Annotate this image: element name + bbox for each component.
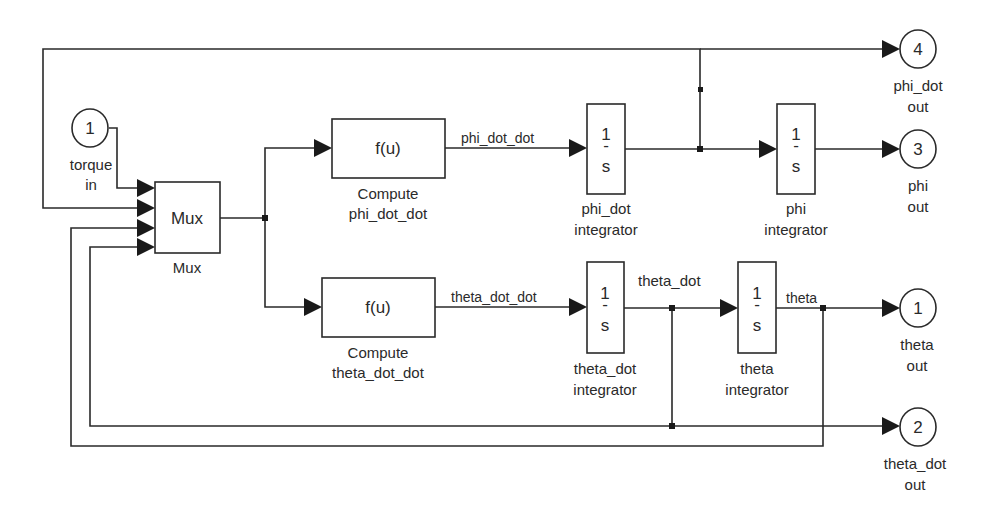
integrator-theta-bar: - — [754, 295, 760, 314]
outport-phi-label-line1: phi — [908, 177, 928, 194]
arrow-out4 — [882, 40, 900, 58]
arrow-out1 — [882, 299, 900, 317]
integrator-theta-name-line2: integrator — [725, 381, 788, 398]
inport-torque-number: 1 — [85, 119, 94, 138]
outport-theta-label-line1: theta — [900, 336, 934, 353]
mux-block-name: Mux — [173, 259, 202, 276]
integrator-phi-dot-name-line2: integrator — [574, 221, 637, 238]
integrator-theta-dot-name-line2: integrator — [573, 381, 636, 398]
outport-theta-dot-number: 2 — [913, 418, 922, 437]
branch-point-theta-dot — [669, 305, 675, 311]
mux-block-label: Mux — [171, 209, 204, 228]
arrow-mux-in2 — [137, 199, 155, 217]
branch-point-mux — [262, 215, 268, 221]
outport-theta-dot-label-line2: out — [905, 476, 927, 493]
integrator-phi-dot-bar: - — [603, 136, 609, 155]
fcn-block-phi-name-line2: phi_dot_dot — [349, 205, 428, 222]
integrator-phi-dot-den: s — [602, 157, 611, 176]
mux-block[interactable]: Mux — [155, 182, 220, 253]
arrow-theta-int-in — [720, 299, 738, 317]
block-diagram-canvas: 1 torque in Mux Mux f(u) Compute phi_dot… — [0, 0, 984, 523]
arrow-mux-in3 — [137, 219, 155, 237]
wire-mux-to-phi-fcn[interactable] — [265, 148, 314, 218]
arrow-theta-fcn-in — [304, 298, 322, 316]
arrow-out2 — [882, 417, 900, 435]
signal-label-theta-dot-dot: theta_dot_dot — [451, 289, 537, 305]
outport-phi-dot-number: 4 — [913, 40, 922, 59]
integrator-theta-dot-den: s — [601, 316, 610, 335]
arrow-mux-in4 — [137, 238, 155, 256]
integrator-phi-name-line2: integrator — [764, 221, 827, 238]
signal-label-theta-dot: theta_dot — [638, 272, 701, 289]
outport-theta-number: 1 — [913, 299, 922, 318]
integrator-theta-den: s — [753, 316, 762, 335]
inport-torque-label-line2: in — [85, 176, 97, 193]
inport-torque-label-line1: torque — [70, 156, 113, 173]
arrow-mux-in1 — [137, 179, 155, 197]
outport-phi[interactable]: 3 — [900, 130, 936, 168]
fcn-block-theta-name-line1: Compute — [348, 344, 409, 361]
integrator-phi-dot-name-line1: phi_dot — [581, 200, 631, 217]
outport-phi-label-line2: out — [908, 198, 930, 215]
outport-phi-dot-label-line2: out — [908, 98, 930, 115]
signal-label-theta: theta — [786, 290, 817, 306]
outport-theta[interactable]: 1 — [900, 289, 936, 327]
fcn-block-phi-expr: f(u) — [375, 139, 401, 158]
integrator-phi-bar: - — [793, 136, 799, 155]
integrator-phi-den: s — [792, 157, 801, 176]
outport-theta-label-line2: out — [907, 357, 929, 374]
fcn-block-phi[interactable]: f(u) — [332, 119, 445, 178]
wire-torque-to-mux[interactable] — [109, 128, 137, 188]
fcn-block-phi-name-line1: Compute — [358, 185, 419, 202]
arrow-phi-int-in — [759, 140, 777, 158]
branch-point-theta-dot-bottom — [669, 423, 675, 429]
arrow-phi-fcn-in — [314, 139, 332, 157]
branch-point-theta — [820, 305, 826, 311]
integrator-phi[interactable]: 1 - s — [777, 104, 815, 194]
integrator-phi-dot[interactable]: 1 - s — [587, 104, 625, 194]
fcn-block-theta[interactable]: f(u) — [322, 278, 435, 337]
integrator-theta-name-line1: theta — [740, 360, 774, 377]
arrow-out3 — [882, 140, 900, 158]
outport-theta-dot-label-line1: theta_dot — [884, 455, 947, 472]
arrow-phi-dot-int-in — [569, 139, 587, 157]
inport-torque[interactable]: 1 — [72, 109, 108, 147]
fcn-block-theta-expr: f(u) — [365, 298, 391, 317]
outport-phi-dot-label-line1: phi_dot — [893, 77, 943, 94]
signal-label-phi-dot-dot: phi_dot_dot — [461, 130, 534, 146]
integrator-phi-name-line1: phi — [786, 200, 806, 217]
fcn-block-theta-name-line2: theta_dot_dot — [332, 364, 425, 381]
branch-point-phi-dot — [697, 146, 703, 152]
arrow-theta-dot-int-in — [569, 298, 587, 316]
wire-mux-to-theta-fcn[interactable] — [265, 218, 304, 307]
integrator-theta-dot-name-line1: theta_dot — [574, 360, 637, 377]
branch-point-phi-dot-top — [698, 87, 703, 92]
integrator-theta-dot-bar: - — [602, 295, 608, 314]
integrator-theta-dot[interactable]: 1 - s — [587, 262, 624, 353]
outport-phi-number: 3 — [913, 140, 922, 159]
outport-phi-dot[interactable]: 4 — [900, 30, 936, 68]
integrator-theta[interactable]: 1 - s — [738, 262, 776, 353]
outport-theta-dot[interactable]: 2 — [900, 408, 936, 446]
